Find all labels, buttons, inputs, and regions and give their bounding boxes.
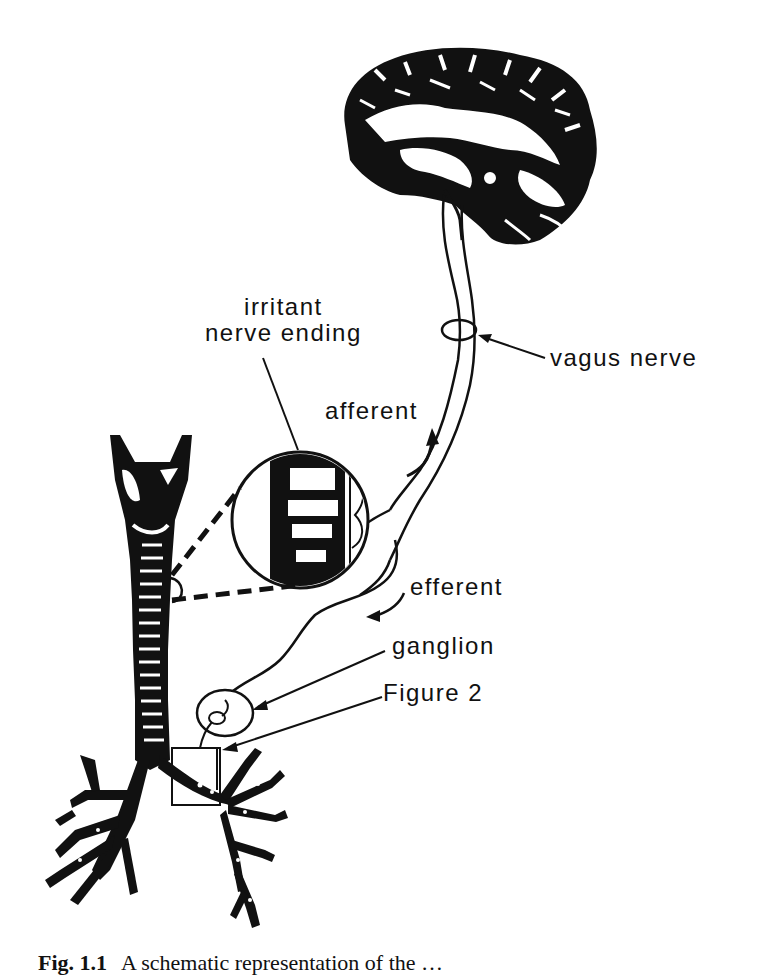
label-ganglion: ganglion bbox=[392, 633, 495, 659]
efferent-arrow bbox=[366, 593, 404, 622]
brain-illustration bbox=[344, 48, 597, 245]
vagus-pointer-arrow bbox=[478, 334, 545, 358]
label-irritant-line2: nerve ending bbox=[205, 320, 362, 346]
label-figure-2: Figure 2 bbox=[383, 680, 483, 706]
label-vagus-nerve: vagus nerve bbox=[550, 345, 697, 371]
label-efferent: efferent bbox=[410, 574, 503, 600]
magnified-airway-circle bbox=[232, 452, 368, 592]
figure-caption: Fig. 1.1A schematic representation of th… bbox=[38, 950, 443, 976]
afferent-arrow bbox=[407, 428, 439, 476]
ganglion-pointer-arrow bbox=[252, 651, 385, 710]
caption-number: Fig. 1.1 bbox=[38, 950, 107, 975]
caption-text: A schematic representation of the … bbox=[121, 950, 443, 975]
label-irritant-nerve-ending: irritant nerve ending bbox=[205, 294, 362, 346]
label-afferent: afferent bbox=[325, 398, 418, 424]
label-irritant-line1: irritant bbox=[205, 294, 362, 320]
ganglion-marker bbox=[197, 690, 253, 748]
irritant-pointer-line bbox=[263, 358, 298, 450]
trachea bbox=[110, 435, 192, 770]
